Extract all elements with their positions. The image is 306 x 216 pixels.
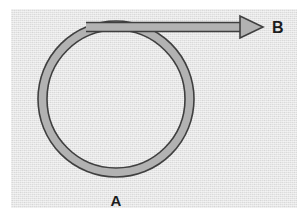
loop-outer-outline: [38, 21, 194, 177]
loop-inner-outline: [47, 30, 185, 168]
label-b: B: [272, 19, 284, 36]
arrow-tip: [240, 16, 263, 38]
circular-loop: [43, 26, 190, 173]
label-a: A: [111, 192, 122, 209]
straight-lead: [86, 23, 240, 32]
figure-root: A B: [0, 0, 306, 216]
loop-diagram: A B: [0, 0, 306, 216]
